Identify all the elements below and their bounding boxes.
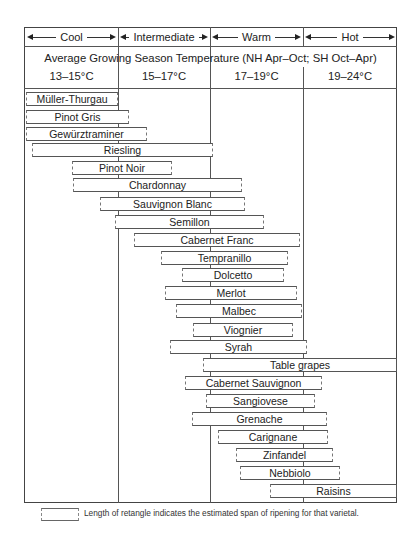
arrow-line — [363, 37, 389, 38]
temp-range-intermediate: 15–17°C — [118, 70, 210, 82]
variety-bar: Malbec — [176, 304, 302, 318]
variety-bar: Riesling — [32, 143, 213, 157]
column-divider-intermediate-warm — [210, 27, 211, 503]
temp-range-warm: 17–19°C — [210, 70, 303, 82]
chart-subtitle: Average Growing Season Temperature (NH A… — [24, 52, 397, 64]
variety-bar: Viognier — [193, 323, 293, 337]
arrow-right-icon — [389, 34, 395, 40]
variety-bar: Pinot Gris — [26, 110, 129, 124]
variety-bar: Zinfandel — [236, 448, 333, 462]
zone-label: Hot — [337, 31, 362, 43]
arrow-right-icon — [295, 34, 301, 40]
variety-bar: Cabernet Sauvignon — [185, 376, 322, 390]
variety-bar: Merlot — [165, 286, 297, 300]
legend-rectangle-icon — [41, 508, 79, 521]
variety-bar: Cabernet Franc — [134, 233, 300, 247]
arrow-right-icon — [110, 34, 116, 40]
temp-range-cool: 13–15°C — [25, 70, 118, 82]
variety-bar: Gewürztraminer — [26, 127, 147, 141]
variety-bar: Sangiovese — [206, 394, 315, 408]
zone-intermediate: Intermediate — [120, 28, 208, 46]
variety-bar: Nebbiolo — [240, 466, 340, 480]
arrow-line — [311, 37, 337, 38]
column-divider-cool-intermediate — [118, 27, 119, 503]
arrow-line — [218, 37, 238, 38]
variety-bar: Carignane — [218, 430, 328, 444]
arrow-line — [33, 37, 56, 38]
temp-range-hot: 19–24°C — [303, 70, 397, 82]
zone-label: Warm — [238, 31, 275, 43]
variety-bar: Semillon — [115, 215, 264, 229]
arrow-line — [87, 37, 110, 38]
legend-text: Length of retangle indicates the estimat… — [84, 508, 359, 518]
variety-bar: Syrah — [170, 340, 307, 354]
arrow-line — [275, 37, 295, 38]
zone-label: Cool — [56, 31, 87, 43]
zone-hot: Hot — [305, 28, 395, 46]
zone-warm: Warm — [212, 28, 301, 46]
zone-cool: Cool — [27, 28, 116, 46]
variety-bar: Pinot Noir — [72, 161, 172, 175]
column-divider-warm-hot-header — [303, 27, 304, 47]
variety-bar: Sauvignon Blanc — [100, 197, 245, 211]
variety-bar: Raisins — [270, 484, 397, 498]
arrow-line — [199, 37, 202, 38]
arrow-right-icon — [202, 34, 208, 40]
variety-bar: Grenache — [192, 412, 327, 426]
variety-bar: Chardonnay — [73, 178, 242, 192]
variety-bar: Müller-Thurgau — [26, 92, 118, 106]
zone-label: Intermediate — [129, 31, 198, 43]
variety-bar: Table grapes — [203, 358, 397, 372]
variety-bar: Tempranillo — [161, 251, 288, 265]
arrow-line — [126, 37, 129, 38]
variety-bar: Dolcetto — [182, 268, 284, 282]
